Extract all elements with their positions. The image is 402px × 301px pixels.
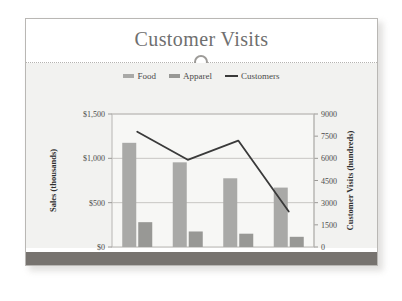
svg-text:3000: 3000 (321, 199, 337, 208)
chart-plot: $0$500$1,000$1,500Sales (thousands)01500… (26, 63, 378, 266)
svg-text:$0: $0 (97, 243, 105, 252)
page-title: Customer Visits (26, 28, 377, 51)
svg-text:Sales (thousands): Sales (thousands) (48, 149, 58, 212)
svg-text:1500: 1500 (321, 221, 337, 230)
chart-body: Food Apparel Customers $0$500$1,000$1,50… (26, 63, 377, 248)
legend-item-food: Food (123, 71, 156, 81)
chart-legend: Food Apparel Customers (26, 71, 377, 81)
slide-canvas: Customer Visits Food Apparel Customers $… (25, 18, 378, 266)
svg-text:7500: 7500 (321, 132, 337, 141)
svg-text:$1,500: $1,500 (83, 110, 105, 119)
svg-text:$1,000: $1,000 (83, 154, 105, 163)
svg-text:6000: 6000 (321, 154, 337, 163)
svg-text:0: 0 (321, 243, 325, 252)
legend-item-customers: Customers (225, 71, 280, 81)
plot-area-wrapper: $0$500$1,000$1,500Sales (thousands)01500… (26, 63, 378, 266)
legend-label-customers: Customers (241, 71, 280, 81)
svg-text:$500: $500 (89, 199, 105, 208)
legend-line-customers-icon (225, 75, 238, 77)
legend-label-apparel: Apparel (183, 71, 212, 81)
legend-item-apparel: Apparel (169, 71, 212, 81)
slide-footer-bar (26, 252, 377, 265)
legend-label-food: Food (137, 71, 156, 81)
svg-text:4500: 4500 (321, 177, 337, 186)
legend-swatch-apparel-icon (169, 74, 180, 78)
legend-swatch-food-icon (123, 74, 134, 78)
svg-text:9000: 9000 (321, 110, 337, 119)
svg-text:Customer Visits (hundreds): Customer Visits (hundreds) (345, 130, 355, 230)
